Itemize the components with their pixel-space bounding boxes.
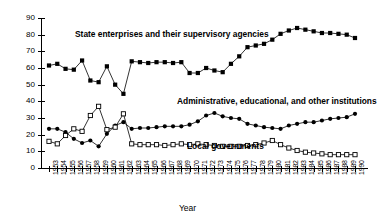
data-point: [328, 31, 332, 35]
data-point: [113, 125, 117, 129]
data-point: [270, 38, 274, 42]
data-point: [221, 114, 225, 118]
data-point: [179, 60, 183, 64]
data-point: [171, 124, 175, 128]
data-point: [295, 122, 299, 126]
data-point: [47, 127, 51, 131]
data-point: [97, 104, 101, 108]
data-point: [336, 32, 340, 36]
data-point: [303, 120, 307, 124]
data-point: [179, 124, 183, 128]
data-point: [105, 128, 109, 132]
data-point: [146, 143, 150, 147]
data-point: [312, 151, 316, 155]
data-point: [245, 45, 249, 49]
data-point: [130, 142, 134, 146]
data-point: [237, 54, 241, 58]
administrative-label: Administrative, educational, and other i…: [177, 96, 377, 106]
data-point: [328, 153, 332, 157]
data-point: [229, 116, 233, 120]
data-point: [171, 143, 175, 147]
data-point: [270, 138, 274, 142]
data-point: [229, 62, 233, 66]
data-point: [320, 31, 324, 35]
data-point: [245, 122, 249, 126]
data-point: [336, 153, 340, 157]
data-point: [204, 66, 208, 70]
data-point: [55, 62, 59, 66]
data-point: [163, 124, 167, 128]
data-point: [312, 29, 316, 33]
data-point: [353, 153, 357, 157]
data-point: [138, 143, 142, 147]
data-point: [55, 142, 59, 146]
data-point: [72, 68, 76, 72]
data-point: [130, 127, 134, 131]
data-point: [254, 43, 258, 47]
y-tick-label: 0: [19, 163, 35, 172]
data-point: [303, 28, 307, 32]
data-point: [287, 123, 291, 127]
y-tick-label: 30: [19, 113, 35, 122]
data-point: [204, 113, 208, 117]
data-point: [295, 148, 299, 152]
data-point: [278, 127, 282, 131]
data-point: [154, 60, 158, 64]
data-point: [254, 123, 258, 127]
local-governments-label: Local governments: [187, 141, 264, 151]
y-tick-label: 40: [19, 96, 35, 105]
data-point: [303, 150, 307, 154]
data-point: [146, 61, 150, 65]
data-point: [55, 127, 59, 131]
data-point: [345, 33, 349, 37]
data-point: [80, 129, 84, 133]
data-point: [237, 117, 241, 121]
data-point: [63, 133, 67, 137]
data-point: [345, 153, 349, 157]
data-point: [88, 113, 92, 117]
data-point: [345, 115, 349, 119]
state-enterprises-label: State enterprises and their supervisory …: [75, 29, 269, 39]
data-point: [187, 123, 191, 127]
data-point: [163, 60, 167, 64]
data-point: [179, 142, 183, 146]
data-point: [320, 118, 324, 122]
data-point: [262, 42, 266, 46]
y-tick-label: 80: [19, 30, 35, 39]
data-point: [130, 59, 134, 63]
data-point: [212, 111, 216, 115]
y-tick-label: 90: [19, 13, 35, 22]
data-point: [270, 126, 274, 130]
data-point: [97, 80, 101, 84]
y-tick-label: 70: [19, 46, 35, 55]
y-tick-label: 50: [19, 80, 35, 89]
data-point: [105, 132, 109, 136]
data-point: [121, 92, 125, 96]
data-point: [72, 127, 76, 131]
data-point: [171, 61, 175, 65]
data-point: [138, 60, 142, 64]
data-point: [278, 32, 282, 36]
data-point: [121, 112, 125, 116]
data-point: [154, 143, 158, 147]
y-tick-label: 10: [19, 146, 35, 155]
data-point: [88, 138, 92, 142]
data-point: [80, 58, 84, 62]
data-point: [320, 152, 324, 156]
data-point: [88, 78, 92, 82]
data-point: [278, 143, 282, 147]
data-point: [63, 67, 67, 71]
data-point: [336, 116, 340, 120]
data-point: [187, 71, 191, 75]
data-point: [138, 126, 142, 130]
data-point: [121, 120, 125, 124]
data-point: [262, 125, 266, 129]
data-point: [47, 63, 51, 67]
data-point: [221, 70, 225, 74]
y-tick-label: 60: [19, 63, 35, 72]
data-point: [196, 71, 200, 75]
data-point: [287, 146, 291, 150]
data-point: [113, 83, 117, 87]
data-point: [47, 139, 51, 143]
